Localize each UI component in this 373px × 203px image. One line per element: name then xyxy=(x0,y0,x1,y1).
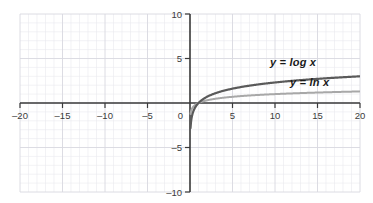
x-tick-label: –20 xyxy=(12,110,28,121)
x-tick-label: 5 xyxy=(230,110,235,121)
x-tick-label: –10 xyxy=(97,110,113,121)
x-tick-label: –15 xyxy=(55,110,71,121)
y-tick-label: 5 xyxy=(177,53,182,64)
curve-label-log: y = log x xyxy=(270,56,316,68)
x-tick-label: 10 xyxy=(270,110,281,121)
x-tick-label: 20 xyxy=(355,110,366,121)
curve-label-ln: y = ln x xyxy=(290,76,329,88)
x-tick-label: –5 xyxy=(142,110,153,121)
y-tick-label: –10 xyxy=(166,187,182,198)
y-tick-label: 10 xyxy=(171,9,182,20)
plot-area: –20–15–10–505101520 –10–5510 xyxy=(0,0,373,203)
x-tick-label: 0 xyxy=(178,110,183,121)
y-tick-label: –5 xyxy=(171,142,182,153)
logarithm-graph-figure: –20–15–10–505101520 –10–5510 y = log x y… xyxy=(0,0,373,203)
x-tick-label: 15 xyxy=(312,110,323,121)
